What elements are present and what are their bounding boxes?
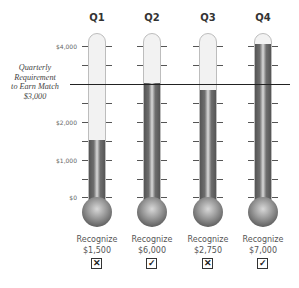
tick-mark (272, 103, 278, 104)
q1-amount: $1,500 (67, 245, 127, 256)
q2-amount: $6,000 (122, 245, 182, 256)
q2-check-icon: ✓ (146, 258, 157, 269)
q4-fill (255, 44, 271, 202)
q1-x-icon: ✕ (91, 258, 102, 269)
tick-mark (272, 160, 278, 161)
tick-mark (82, 103, 88, 104)
tick-mark (217, 46, 223, 47)
tick-mark (272, 197, 278, 198)
q3-bulb (193, 197, 223, 227)
tick-mark (137, 141, 143, 142)
tick-mark (161, 160, 167, 161)
q1-caption: Recognize$1,500 (67, 234, 127, 256)
tick-mark (106, 160, 112, 161)
q2-caption: Recognize$6,000 (122, 234, 182, 256)
tick-mark (137, 160, 143, 161)
q4-bulb (248, 197, 278, 227)
requirement-line4: $3,000 (2, 92, 68, 102)
tick-mark (161, 103, 167, 104)
requirement-line1: Quarterly (2, 63, 68, 73)
tick-mark (82, 46, 88, 47)
tick-mark (161, 122, 167, 123)
tick-mark (82, 197, 88, 198)
q3-caption: Recognize$2,750 (178, 234, 238, 256)
tick-mark (137, 65, 143, 66)
requirement-line3: to Earn Match (2, 82, 68, 92)
tick-mark (217, 197, 223, 198)
y-tick-0: $0 (69, 194, 77, 201)
tick-mark (272, 46, 278, 47)
tick-mark (82, 141, 88, 142)
tick-mark (217, 103, 223, 104)
q4-caption-text: Recognize (233, 234, 293, 245)
q1-caption-text: Recognize (67, 234, 127, 245)
y-tick-1000: $1,000 (56, 157, 77, 164)
q4-caption: Recognize$7,000 (233, 234, 293, 256)
tick-mark (193, 160, 199, 161)
tick-mark (193, 141, 199, 142)
y-tick-2000: $2,000 (56, 119, 77, 126)
y-tick-4000: $4,000 (56, 43, 77, 50)
tick-mark (248, 197, 254, 198)
tick-mark (272, 65, 278, 66)
tick-mark (193, 103, 199, 104)
q2-thermometer-tube (143, 33, 161, 203)
tick-mark (217, 65, 223, 66)
tick-mark (217, 179, 223, 180)
tick-mark (106, 122, 112, 123)
tick-mark (217, 160, 223, 161)
tick-mark (137, 197, 143, 198)
tick-mark (272, 122, 278, 123)
tick-mark (137, 46, 143, 47)
tick-mark (272, 141, 278, 142)
q2-label: Q2 (132, 12, 172, 23)
tick-mark (193, 179, 199, 180)
tick-mark (193, 65, 199, 66)
q2-bulb (137, 197, 167, 227)
q4-label: Q4 (243, 12, 283, 23)
tick-mark (248, 160, 254, 161)
tick-mark (161, 179, 167, 180)
tick-mark (248, 103, 254, 104)
tick-mark (106, 46, 112, 47)
tick-mark (248, 46, 254, 47)
tick-mark (137, 122, 143, 123)
tick-mark (106, 103, 112, 104)
q1-fill (89, 140, 105, 202)
q3-fill (200, 90, 216, 202)
tick-mark (217, 122, 223, 123)
tick-mark (248, 141, 254, 142)
tick-mark (193, 122, 199, 123)
tick-mark (193, 46, 199, 47)
tick-mark (82, 179, 88, 180)
tick-mark (161, 65, 167, 66)
requirement-line2: Requirement (2, 73, 68, 83)
tick-mark (193, 197, 199, 198)
tick-mark (137, 103, 143, 104)
q3-amount: $2,750 (178, 245, 238, 256)
tick-mark (106, 197, 112, 198)
tick-mark (137, 179, 143, 180)
tick-mark (161, 141, 167, 142)
q2-fill (144, 83, 160, 202)
tick-mark (161, 197, 167, 198)
q2-caption-text: Recognize (122, 234, 182, 245)
tick-mark (106, 141, 112, 142)
tick-mark (248, 179, 254, 180)
q3-caption-text: Recognize (178, 234, 238, 245)
tick-mark (82, 160, 88, 161)
tick-mark (161, 46, 167, 47)
tick-mark (248, 65, 254, 66)
tick-mark (272, 179, 278, 180)
q4-amount: $7,000 (233, 245, 293, 256)
requirement-line (70, 84, 290, 85)
q1-bulb (82, 197, 112, 227)
tick-mark (82, 65, 88, 66)
requirement-annotation: Quarterly Requirement to Earn Match $3,0… (2, 63, 68, 101)
tick-mark (248, 122, 254, 123)
q4-check-icon: ✓ (257, 258, 268, 269)
tick-mark (106, 65, 112, 66)
tick-mark (82, 122, 88, 123)
q4-thermometer-tube (254, 33, 272, 203)
tick-mark (217, 141, 223, 142)
